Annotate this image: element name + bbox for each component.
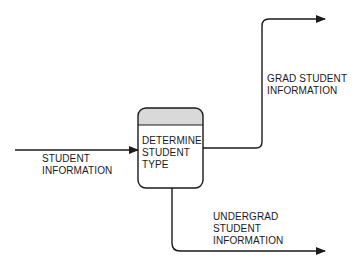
undergrad-flow-label-line: INFORMATION bbox=[213, 235, 283, 247]
input-flow-label-line: STUDENT bbox=[42, 153, 112, 165]
process-label-line: STUDENT bbox=[142, 147, 202, 159]
diagram-canvas bbox=[0, 0, 357, 266]
input-flow-label-line: INFORMATION bbox=[42, 165, 112, 177]
grad-flow-label-line: GRAD STUDENT bbox=[267, 73, 347, 85]
undergrad-flow-label-line: UNDERGRAD bbox=[213, 211, 283, 223]
process-label-line: TYPE bbox=[142, 159, 202, 171]
input-flow-label: STUDENT INFORMATION bbox=[42, 153, 112, 177]
grad-flow-label: GRAD STUDENT INFORMATION bbox=[267, 73, 347, 97]
process-label: DETERMINE STUDENT TYPE bbox=[142, 135, 202, 171]
process-label-line: DETERMINE bbox=[142, 135, 202, 147]
grad-flow-label-line: INFORMATION bbox=[267, 85, 347, 97]
process-header bbox=[138, 108, 203, 125]
undergrad-flow-label: UNDERGRAD STUDENT INFORMATION bbox=[213, 211, 283, 247]
undergrad-flow-label-line: STUDENT bbox=[213, 223, 283, 235]
